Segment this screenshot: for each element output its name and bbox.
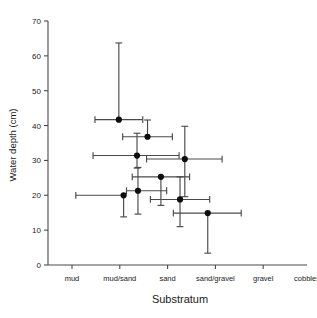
y-tick-label: 50 bbox=[32, 87, 41, 96]
data-marker bbox=[144, 134, 150, 140]
y-axis: 010203040506070 bbox=[32, 17, 48, 270]
data-marker bbox=[158, 174, 164, 180]
y-tick-label: 60 bbox=[32, 52, 41, 61]
x-tick-label-gravel: gravel bbox=[253, 274, 274, 283]
scatter-plot-canvas: 010203040506070 mudmud/sandsandsand/grav… bbox=[0, 0, 317, 318]
x-tick-label-sand-gravel: sand/gravel bbox=[196, 274, 235, 283]
data-point-p7 bbox=[76, 192, 127, 217]
data-point-p1 bbox=[95, 43, 143, 123]
y-tick-label: 20 bbox=[32, 191, 41, 200]
data-point-p3 bbox=[93, 133, 179, 168]
chart-figure: 010203040506070 mudmud/sandsandsand/grav… bbox=[0, 0, 317, 318]
x-axis-label: Substratum bbox=[152, 293, 208, 305]
data-marker bbox=[205, 210, 211, 216]
x-tick-label-sand: sand bbox=[159, 274, 175, 283]
x-tick-label-mud: mud bbox=[65, 274, 80, 283]
data-point-p9 bbox=[173, 210, 241, 253]
x-tick-label-mud-sand: mud/sand bbox=[103, 274, 136, 283]
data-marker bbox=[177, 196, 183, 202]
x-tick-label-cobbles: cobbles bbox=[294, 274, 317, 283]
data-marker bbox=[116, 117, 122, 123]
x-axis: mudmud/sandsandsand/gravelgravelcobbles bbox=[48, 265, 317, 283]
y-tick-label: 70 bbox=[32, 17, 41, 26]
data-point-p8 bbox=[150, 177, 209, 227]
data-marker bbox=[121, 192, 127, 198]
data-marker bbox=[134, 152, 140, 158]
y-tick-label: 10 bbox=[32, 226, 41, 235]
data-marker bbox=[135, 188, 141, 194]
data-series-points bbox=[76, 43, 241, 253]
y-tick-label: 40 bbox=[32, 122, 41, 131]
data-marker bbox=[182, 156, 188, 162]
data-point-p2 bbox=[123, 120, 173, 140]
y-axis-label: Water depth (cm) bbox=[7, 108, 18, 181]
y-tick-label: 0 bbox=[37, 261, 42, 270]
y-tick-label: 30 bbox=[32, 156, 41, 165]
